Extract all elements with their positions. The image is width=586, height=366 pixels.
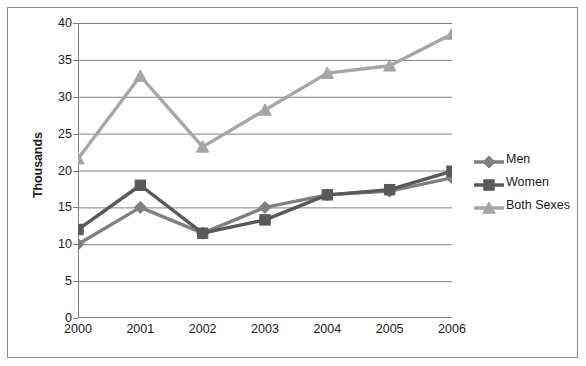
y-axis-tick-label: 25 <box>32 127 72 141</box>
data-point-marker <box>259 201 271 213</box>
data-point-marker <box>483 156 495 168</box>
x-axis-tick-label: 2004 <box>297 322 357 336</box>
legend-marker-diamond-icon <box>474 154 504 166</box>
legend-marker-triangle-icon <box>474 200 504 212</box>
x-axis-tick-label: 2006 <box>422 322 482 336</box>
x-axis-tick-label: 2001 <box>110 322 170 336</box>
data-point-marker <box>197 228 207 238</box>
plot-area <box>78 23 452 318</box>
y-axis-tick-labels: 0510152025303540 <box>30 23 72 318</box>
y-axis-tick-label: 15 <box>32 200 72 214</box>
data-point-marker <box>322 190 332 200</box>
chart-canvas <box>78 23 452 318</box>
chart-legend: MenWomenBoth Sexes <box>474 148 574 217</box>
x-axis-tick-label: 2003 <box>235 322 295 336</box>
data-point-marker <box>484 179 494 189</box>
x-axis-tick-labels: 2000200120022003200420052006 <box>78 322 452 346</box>
legend-marker-square-icon <box>474 177 504 189</box>
legend-item-men[interactable]: Men <box>474 148 574 171</box>
y-axis-tick-label: 20 <box>32 164 72 178</box>
data-point-marker <box>135 180 145 190</box>
y-axis-tick-label: 5 <box>32 274 72 288</box>
x-axis-tick-label: 2005 <box>360 322 420 336</box>
x-axis-tick-label: 2000 <box>48 322 108 336</box>
data-point-marker <box>384 184 394 194</box>
legend-item-women[interactable]: Women <box>474 171 574 194</box>
legend-label: Men <box>506 153 530 166</box>
data-point-marker <box>446 28 452 39</box>
y-axis-tick-label: 40 <box>32 16 72 30</box>
y-axis-tick-label: 10 <box>32 237 72 251</box>
data-point-marker <box>78 224 83 234</box>
y-axis-tick-label: 30 <box>32 90 72 104</box>
y-axis-tick-label: 35 <box>32 53 72 67</box>
data-point-marker <box>134 70 146 81</box>
legend-label: Both Sexes <box>506 199 570 212</box>
x-axis-tick-label: 2002 <box>173 322 233 336</box>
data-point-marker <box>447 166 452 176</box>
series-men <box>78 172 452 250</box>
series-line <box>78 34 452 159</box>
legend-label: Women <box>506 176 549 189</box>
data-point-marker <box>260 215 270 225</box>
chart-figure: Thousands 0510152025303540 2000200120022… <box>0 0 586 366</box>
legend-item-both-sexes[interactable]: Both Sexes <box>474 194 574 217</box>
series-both-sexes <box>78 28 452 164</box>
y-axis-tick <box>73 318 78 319</box>
